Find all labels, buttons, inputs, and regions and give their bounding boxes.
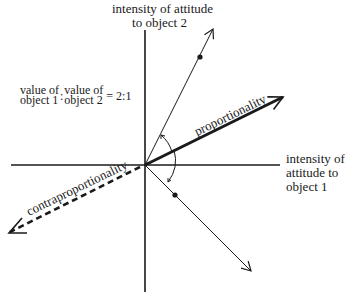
ratio-bottom-right: object 2 (64, 96, 103, 106)
lower-vector-dot (172, 192, 177, 197)
ratio-label: value of object 1 : value of object 2 = … (20, 86, 131, 106)
upper-angle-arc (161, 135, 172, 152)
upper-vector-arrow (145, 29, 213, 165)
ratio-separator: : (60, 89, 63, 103)
y-axis-label: intensity of attitude to object 2 (112, 2, 207, 29)
attitude-diagram: proportionality contraproportionality in… (0, 0, 345, 300)
ratio-bottom-left: object 1 (20, 96, 59, 106)
x-axis-label-line-1: intensity of (286, 152, 345, 165)
lower-angle-arc (168, 150, 175, 182)
x-axis-label: intensity of attitude to object 1 (286, 152, 345, 193)
proportionality-label: proportionality (192, 91, 269, 139)
y-axis-label-line-2: to object 2 (112, 16, 207, 29)
contraproportionality-arrowhead (9, 218, 27, 233)
lower-vector-arrow (145, 165, 251, 271)
x-axis-label-line-2: attitude to (286, 166, 345, 179)
y-axis-label-line-1: intensity of attitude (112, 2, 207, 15)
upper-vector-dot (197, 54, 202, 59)
contraproportionality-arrow (10, 167, 140, 232)
contraproportionality-label: contraproportionality (24, 157, 130, 219)
x-axis-label-line-3: object 1 (286, 180, 345, 193)
diagram-canvas: proportionality contraproportionality (0, 0, 345, 300)
ratio-equals: = 2:1 (106, 89, 131, 103)
